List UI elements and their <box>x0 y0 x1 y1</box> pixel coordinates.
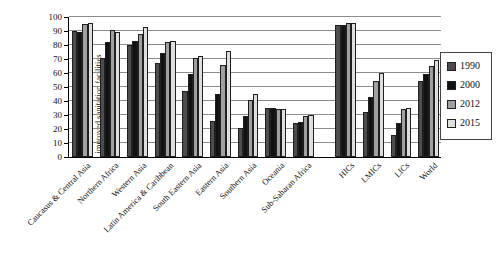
bar <box>281 109 286 157</box>
gridline <box>69 58 441 59</box>
bar <box>406 108 411 157</box>
legend-swatch <box>447 119 456 128</box>
x-category-label: Caucasus & Central Asia <box>0 161 93 259</box>
y-tick-mark <box>64 31 68 32</box>
gridline <box>69 72 441 73</box>
gridline <box>69 30 441 31</box>
legend: 1990200020122015 <box>440 52 492 140</box>
y-tick-mark <box>64 143 68 144</box>
bar <box>198 56 203 157</box>
legend-item: 2000 <box>447 80 485 90</box>
gridline <box>69 44 441 45</box>
legend-item: 2015 <box>447 118 485 128</box>
y-tick-label: 10 <box>32 138 62 148</box>
y-tick-mark <box>64 45 68 46</box>
legend-item: 2012 <box>447 99 485 109</box>
y-tick-label: 0 <box>32 152 62 162</box>
legend-label: 2015 <box>460 118 480 128</box>
y-tick-mark <box>64 129 68 130</box>
gridline <box>69 86 441 87</box>
y-tick-label: 100 <box>32 12 62 22</box>
y-tick-mark <box>64 59 68 60</box>
y-tick-label: 20 <box>32 124 62 134</box>
y-tick-mark <box>64 17 68 18</box>
bar <box>226 51 231 157</box>
y-tick-mark <box>64 87 68 88</box>
legend-swatch <box>447 62 456 71</box>
legend-label: 1990 <box>460 61 480 71</box>
bar <box>351 23 356 157</box>
bar <box>308 115 313 157</box>
y-tick-label: 90 <box>32 26 62 36</box>
y-tick-mark <box>64 115 68 116</box>
bar <box>379 73 384 157</box>
legend-swatch <box>447 100 456 109</box>
legend-item: 1990 <box>447 61 485 71</box>
bar <box>434 60 439 157</box>
y-tick-label: 80 <box>32 40 62 50</box>
legend-swatch <box>447 81 456 90</box>
y-tick-label: 70 <box>32 54 62 64</box>
bar <box>253 94 258 157</box>
legend-label: 2000 <box>460 80 480 90</box>
bar <box>170 41 175 157</box>
y-tick-mark <box>64 101 68 102</box>
bar <box>88 23 93 157</box>
y-tick-label: 60 <box>32 68 62 78</box>
y-tick-mark <box>64 157 68 158</box>
y-tick-label: 40 <box>32 96 62 106</box>
bar <box>143 27 148 157</box>
plot-area: % of population with access to improved … <box>68 17 441 158</box>
bar <box>115 32 120 157</box>
sanitation-bar-chart: % of population with access to improved … <box>0 0 502 270</box>
gridline <box>69 16 441 17</box>
legend-label: 2012 <box>460 99 480 109</box>
y-tick-label: 30 <box>32 110 62 120</box>
y-tick-mark <box>64 73 68 74</box>
y-tick-label: 50 <box>32 82 62 92</box>
